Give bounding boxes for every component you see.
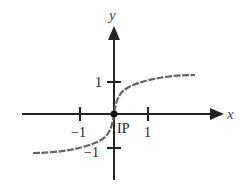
tick-label-x-1: 1 — [144, 125, 151, 140]
x-axis-label: x — [226, 106, 234, 122]
inflection-point — [111, 111, 118, 118]
tick-label-y-neg1: −1 — [84, 145, 99, 160]
chart: y x 1 −1 −1 1 IP — [0, 0, 244, 190]
tick-label-y-1: 1 — [95, 75, 102, 90]
y-axis-label: y — [107, 7, 116, 23]
tick-label-x-neg1: −1 — [71, 125, 86, 140]
ip-label: IP — [117, 121, 130, 136]
